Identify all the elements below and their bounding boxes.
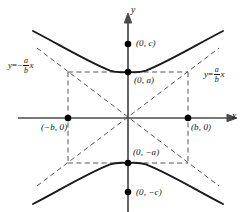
point-lower-vertex [125,160,132,167]
asymptote-right-numerator: a [214,66,220,75]
point-label-lower-focus: (0, −c) [136,188,162,197]
asymptote-right-denominator: b [214,75,220,84]
asymptote-left-variable: x [30,60,34,70]
asymptote-right-equals: = [208,69,213,79]
asymptote-label-right: y= a b x [204,66,225,85]
hyperbola-canvas [0,0,246,212]
point-left-b [65,115,72,122]
y-axis-label: y [131,6,135,16]
asymptote-left-numerator: a [23,57,29,66]
asymptote-left-fraction: a b [23,57,29,76]
asymptote-right-variable: x [220,69,224,79]
point-label-upper-focus: (0, c) [136,39,156,48]
hyperbola-figure: y x (0, c) (0, a) (−b, 0) (b, 0) (0, −a)… [0,0,246,212]
point-right-b [185,115,192,122]
point-label-left-b: (−b, 0) [41,123,67,132]
asymptote-label-left: y=− a b x [8,57,34,76]
asymptote-left-sign: − [17,60,22,70]
point-lower-focus [125,189,132,196]
point-label-right-b: (b, 0) [191,123,211,132]
point-upper-vertex [125,69,132,76]
asymptote-left-denominator: b [23,66,29,75]
point-label-lower-vertex: (0, −a) [133,148,159,157]
asymptote-right-fraction: a b [214,66,220,85]
point-label-upper-vertex: (0, a) [134,76,154,85]
point-upper-focus [125,41,132,48]
x-axis-label: x [232,112,236,122]
